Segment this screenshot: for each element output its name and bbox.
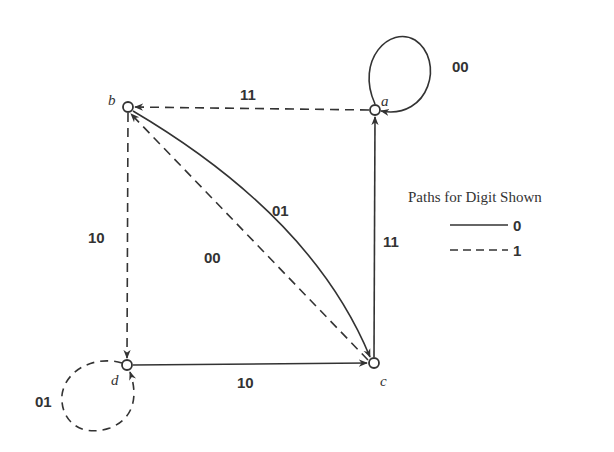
- state-diagram: a b c d 00 11 01 00 10 11 10 01 Paths fo…: [0, 0, 614, 452]
- legend-title: Paths for Digit Shown: [408, 189, 542, 205]
- edge-a-b: [135, 107, 369, 110]
- edge-label-c-a: 11: [383, 233, 399, 250]
- edge-d-c: [133, 363, 367, 365]
- edge-b-d: [127, 113, 128, 358]
- node-label-c: c: [380, 373, 387, 389]
- edge-label-c-b: 00: [204, 249, 221, 266]
- legend-label-0: 0: [513, 217, 521, 234]
- edge-a-a: [369, 36, 430, 111]
- node-label-a: a: [381, 93, 389, 109]
- edge-c-b: [131, 114, 368, 360]
- edge-label-a-b: 11: [240, 86, 256, 103]
- edge-d-d: [62, 361, 134, 431]
- node-label-b: b: [108, 92, 116, 108]
- edge-label-d-d: 01: [35, 393, 52, 410]
- edge-label-d-c: 10: [237, 374, 254, 391]
- node-c: [369, 358, 379, 368]
- edge-c-a: [374, 117, 375, 357]
- node-b: [123, 102, 133, 112]
- node-d: [122, 360, 132, 370]
- legend: Paths for Digit Shown 0 1: [408, 189, 542, 259]
- edge-label-b-c: 01: [272, 202, 289, 219]
- node-label-d: d: [111, 372, 119, 388]
- node-a: [370, 105, 380, 115]
- legend-label-1: 1: [513, 242, 521, 259]
- edge-label-b-d: 10: [88, 229, 105, 246]
- edge-label-a-a: 00: [452, 58, 469, 75]
- edge-b-c: [133, 111, 370, 357]
